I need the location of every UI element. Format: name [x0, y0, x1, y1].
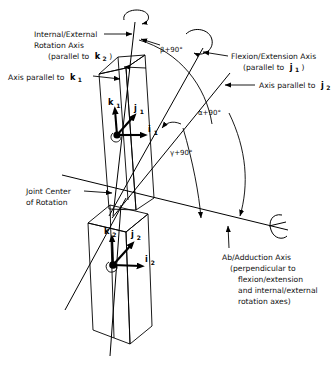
i1-subscript: 1 [154, 129, 158, 136]
j1-subscript: 1 [140, 108, 144, 115]
alpha-angle-arc [229, 113, 245, 216]
internal-external-line1: Internal/External [34, 30, 97, 39]
i2-vector [113, 265, 141, 266]
axis-parallel-k1-label: Axis parallel to k 1 [8, 72, 82, 83]
top-face-inner-arrow [124, 67, 146, 68]
k2-label: k [104, 226, 110, 236]
flexion-vector-symbol: j [289, 62, 293, 72]
upper-bone-prism [99, 55, 154, 210]
k2-subscript: 2 [112, 231, 116, 238]
svg-text:(parallel to j: (parallel to j 1 ) [243, 62, 305, 74]
ab-adduction-leader [228, 226, 229, 248]
i2-label: i [145, 254, 148, 264]
svg-text:Axis parallel to k: Axis parallel to k 1 [8, 72, 82, 83]
lower-left-diagonal-line [65, 198, 126, 310]
abduction-line1: Ab/Adduction Axis [222, 253, 291, 262]
internal-external-line3: (parallel to [48, 52, 90, 61]
joint-center-line2: of Rotation [26, 198, 68, 207]
svg-text:k 1: k 1 [108, 97, 121, 109]
alpha-angle-label: α+90° [198, 109, 221, 117]
j2-vector [113, 244, 132, 265]
flexion-extension-axis-label: Flexion/Extension Axis (parallel to j 1 … [231, 52, 316, 74]
j1-label: j [133, 103, 137, 113]
joint-center-of-rotation-label: Joint Center of Rotation [25, 187, 72, 207]
k1-subscript: 1 [116, 102, 120, 109]
svg-text:i 2: i 2 [145, 254, 155, 266]
internal-external-vector-symbol: k [95, 51, 101, 61]
axis-parallel-j2-vector-symbol: j [320, 80, 324, 90]
diagram-canvas: Internal/External Rotation Axis (paralle… [0, 0, 335, 368]
axis-parallel-j2-text: Axis parallel to [259, 81, 316, 90]
k1-vector [115, 110, 117, 135]
gamma-angle-arc [183, 128, 201, 218]
flexion-line1: Flexion/Extension Axis [231, 52, 316, 61]
internal-external-line2: Rotation Axis [34, 41, 84, 50]
i1-label: i [148, 124, 151, 134]
beta-angle-label: β+90° [160, 46, 183, 54]
internal-external-rotation-axis-label: Internal/External Rotation Axis (paralle… [34, 30, 112, 63]
flexion-line2: (parallel to [243, 63, 285, 72]
svg-text:Axis parallel to j: Axis parallel to j 2 [259, 80, 330, 91]
svg-text:i 1: i 1 [148, 124, 158, 136]
axis-parallel-k1-leader [93, 76, 120, 79]
upper-vector-triad [111, 110, 144, 142]
joint-center-line1: Joint Center [25, 187, 72, 196]
flexion-extension-rotation-curl-icon [186, 29, 212, 54]
internal-external-close-paren: ) [109, 52, 112, 61]
lower-bone-prism [88, 205, 152, 344]
axis-parallel-j2-subscript: 2 [326, 84, 330, 91]
flexion-extension-leader [203, 52, 228, 56]
j2-subscript: 2 [137, 234, 141, 241]
abduction-line5: rotation axes) [238, 297, 291, 306]
internal-external-vector-subscript: 2 [103, 55, 107, 62]
abduction-line4: and internal/external [238, 286, 318, 295]
k1-label: k [108, 97, 114, 107]
axis-parallel-j2-label: Axis parallel to j 2 [259, 80, 330, 91]
i2-subscript: 2 [151, 259, 155, 266]
svg-text:(parallel to k: (parallel to k 2 ) [48, 51, 112, 63]
flexion-vector-subscript: 1 [295, 66, 299, 73]
gamma-angle-label: γ+90° [170, 149, 192, 157]
internal-external-rotation-curl-icon [124, 10, 149, 24]
k2-vector [112, 238, 113, 265]
j1-vector [117, 116, 134, 135]
j2-label: j [130, 229, 134, 239]
axis-parallel-k1-subscript: 1 [78, 76, 82, 83]
flexion-close-paren: ) [302, 63, 305, 72]
svg-text:j 1: j 1 [133, 103, 144, 115]
axis-parallel-k1-text: Axis parallel to [8, 73, 65, 82]
abduction-line3: flexion/extension [238, 275, 303, 284]
svg-text:k 2: k 2 [104, 226, 117, 238]
joint-axes-figure: Internal/External Rotation Axis (paralle… [0, 0, 335, 368]
abduction-line2: (perpendicular to [230, 264, 296, 273]
gamma-angle-arc-upper [162, 122, 181, 128]
axis-parallel-j2-line [112, 73, 230, 218]
axis-parallel-k1-vector-symbol: k [70, 72, 76, 82]
ab-adduction-axis-label: Ab/Adduction Axis (perpendicular to flex… [222, 253, 318, 306]
svg-text:j 2: j 2 [130, 229, 141, 241]
ab-adduction-axis-line [62, 175, 288, 230]
